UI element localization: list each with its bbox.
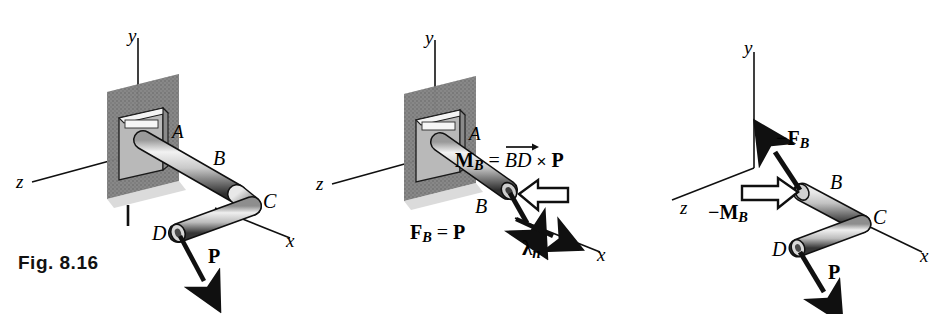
cross-product-symbol: × bbox=[531, 152, 551, 171]
panel-force-couple: y z x A B MB= BD ×P FB=P λn bbox=[300, 0, 650, 314]
panel-equivalent: y z x B C D −FB −MB P bbox=[650, 0, 947, 314]
lambda-subscript-n: n bbox=[532, 245, 540, 261]
reaction-moment-neg-mb: −MB bbox=[708, 202, 748, 225]
equals-sign: = bbox=[484, 149, 505, 171]
equals-sign: = bbox=[432, 221, 453, 243]
force-symbol-f: F bbox=[787, 127, 799, 149]
figure-caption: Fig. 8.16 bbox=[18, 252, 99, 274]
point-label-a: A bbox=[172, 122, 184, 141]
force-symbol-p: P bbox=[453, 221, 465, 243]
point-label-b: B bbox=[213, 148, 225, 168]
force-symbol-f: F bbox=[410, 221, 422, 243]
force-symbol-p: P bbox=[551, 149, 563, 171]
force-label-p: P bbox=[208, 246, 220, 266]
point-label-b: B bbox=[830, 172, 842, 192]
point-label-c: C bbox=[873, 207, 886, 227]
axis-label-y: y bbox=[128, 26, 136, 45]
unit-vector-lambda-n: λn bbox=[522, 238, 541, 261]
force-subscript-b: B bbox=[422, 229, 432, 245]
force-label-p: P bbox=[828, 262, 840, 282]
reaction-force-neg-fb: −FB bbox=[776, 128, 809, 151]
moment-subscript-b: B bbox=[738, 209, 748, 225]
force-expression-fb: FB=P bbox=[410, 222, 465, 245]
point-label-c: C bbox=[263, 191, 276, 211]
minus-sign: − bbox=[776, 127, 787, 149]
moment-subscript-b: B bbox=[474, 157, 484, 173]
lambda-symbol: λ bbox=[522, 236, 532, 260]
axis-label-y: y bbox=[425, 28, 433, 47]
moment-symbol-m: M bbox=[719, 201, 738, 223]
axis-label-x: x bbox=[286, 231, 294, 250]
moment-expression-mb: MB= BD ×P bbox=[455, 150, 564, 173]
point-label-d: D bbox=[152, 223, 166, 243]
panel-equivalent-graphic bbox=[650, 0, 947, 314]
axis-label-z: z bbox=[16, 172, 23, 191]
axis-label-y: y bbox=[744, 38, 752, 57]
axis-label-x: x bbox=[597, 245, 605, 264]
axis-label-z: z bbox=[316, 174, 323, 193]
axis-label-x: x bbox=[920, 246, 928, 265]
force-subscript-b: B bbox=[800, 135, 810, 151]
moment-symbol-m: M bbox=[455, 149, 474, 171]
point-label-d: D bbox=[772, 239, 786, 259]
vector-overarrow-icon bbox=[506, 143, 540, 151]
panel-original: y z x A B C D P Fig. 8.16 bbox=[0, 0, 300, 314]
point-label-b: B bbox=[475, 196, 487, 216]
minus-sign: − bbox=[708, 201, 719, 223]
figure-8-16: y z x A B C D P Fig. 8.16 bbox=[0, 0, 947, 314]
vector-bd: BD bbox=[505, 149, 532, 171]
axis-label-z: z bbox=[680, 198, 687, 217]
point-label-a: A bbox=[469, 124, 481, 143]
